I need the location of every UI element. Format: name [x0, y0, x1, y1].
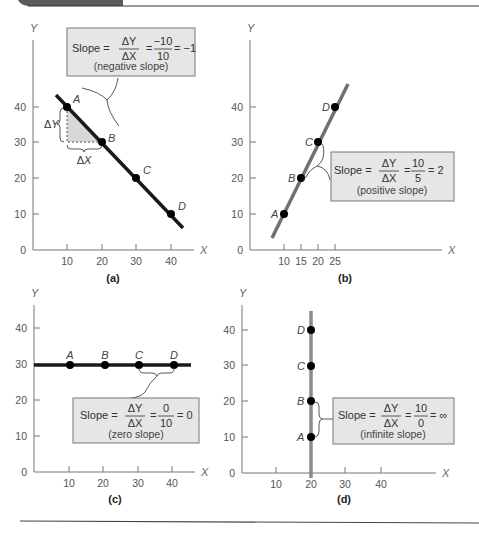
svg-text:ΔX: ΔX — [382, 172, 397, 184]
point-d — [167, 210, 175, 218]
svg-text:40: 40 — [166, 477, 178, 489]
svg-text:A: A — [270, 208, 278, 220]
svg-text:40: 40 — [231, 101, 243, 113]
point-a — [63, 103, 71, 111]
svg-text:10: 10 — [223, 431, 235, 443]
svg-text:X: X — [447, 244, 456, 256]
svg-text:A: A — [65, 349, 73, 361]
svg-text:40: 40 — [165, 255, 177, 267]
svg-text:20: 20 — [96, 255, 108, 267]
point-c — [307, 362, 315, 370]
svg-text:20: 20 — [231, 172, 243, 184]
svg-text:(a): (a) — [106, 272, 120, 284]
point-a — [307, 433, 315, 441]
svg-text:C: C — [297, 360, 305, 372]
svg-text:10: 10 — [15, 430, 27, 442]
svg-text:Slope =: Slope = — [72, 42, 110, 54]
svg-text:10: 10 — [415, 402, 427, 414]
svg-text:= 0: = 0 — [177, 409, 193, 421]
svg-text:ΔY: ΔY — [122, 35, 137, 47]
point-a — [66, 361, 74, 369]
point-c — [135, 361, 143, 369]
svg-text:X: X — [441, 467, 450, 479]
delta-x-brace — [67, 145, 102, 152]
svg-text:0: 0 — [20, 244, 26, 256]
svg-text:D: D — [297, 324, 305, 336]
svg-text:= ∞: = ∞ — [430, 409, 447, 421]
svg-text:−10: −10 — [154, 35, 173, 47]
svg-text:A: A — [296, 431, 304, 443]
svg-text:30: 30 — [130, 255, 142, 267]
svg-text:15: 15 — [295, 255, 307, 267]
point-d — [170, 361, 178, 369]
svg-text:B: B — [297, 395, 304, 407]
point-a — [280, 210, 288, 218]
svg-text:Slope =: Slope = — [338, 409, 376, 421]
svg-text:ΔY: ΔY — [384, 402, 399, 414]
svg-text:B: B — [101, 349, 108, 361]
svg-text:= −1: = −1 — [174, 42, 196, 54]
footer-rule — [20, 521, 479, 523]
svg-text:D: D — [322, 101, 330, 113]
svg-text:0: 0 — [229, 467, 235, 479]
svg-text:20: 20 — [312, 255, 324, 267]
svg-text:40: 40 — [223, 324, 235, 336]
svg-text:5: 5 — [415, 172, 421, 184]
svg-text:=: = — [146, 42, 152, 54]
svg-text:10: 10 — [231, 208, 243, 220]
header-rule — [18, 0, 479, 6]
svg-text:25: 25 — [329, 255, 341, 267]
svg-text:B: B — [108, 132, 115, 144]
svg-text:(d): (d) — [337, 493, 351, 505]
svg-text:(negative slope): (negative slope) — [94, 60, 169, 72]
point-b — [101, 361, 109, 369]
svg-text:(infinite slope): (infinite slope) — [360, 428, 425, 440]
svg-text:10: 10 — [412, 157, 424, 169]
panel-c: Y X 0 10 20 30 40 10 20 30 40 A B C D — [15, 287, 209, 505]
point-c — [314, 138, 322, 146]
svg-text:20: 20 — [223, 395, 235, 407]
point-c — [132, 174, 140, 182]
panel-d: Y X 0 10 20 30 40 10 20 30 40 A B C D Sl… — [223, 287, 454, 505]
svg-text:20: 20 — [97, 477, 109, 489]
svg-text:10: 10 — [270, 478, 282, 490]
svg-text:20: 20 — [15, 394, 27, 406]
svg-text:B: B — [288, 172, 295, 184]
svg-text:10: 10 — [278, 255, 290, 267]
svg-text:(c): (c) — [108, 493, 122, 505]
svg-text:(zero slope): (zero slope) — [108, 428, 163, 440]
svg-text:10: 10 — [63, 477, 75, 489]
svg-text:A: A — [72, 93, 80, 105]
svg-text:=: = — [405, 409, 411, 421]
svg-text:30: 30 — [15, 358, 27, 370]
svg-text:C: C — [135, 349, 143, 361]
svg-text:=: = — [404, 164, 410, 176]
svg-text:ΔY: ΔY — [382, 157, 397, 169]
delta-y-label: ΔY — [44, 118, 59, 130]
callout-brace — [315, 402, 333, 437]
point-d — [331, 103, 339, 111]
svg-text:20: 20 — [305, 478, 317, 490]
svg-text:40: 40 — [14, 101, 26, 113]
svg-text:Y: Y — [247, 22, 255, 34]
svg-text:0: 0 — [163, 402, 169, 414]
svg-text:(b): (b) — [338, 272, 352, 284]
point-b — [307, 397, 315, 405]
svg-text:Y: Y — [239, 287, 247, 299]
svg-text:10: 10 — [14, 208, 26, 220]
callout-brace — [82, 78, 119, 126]
svg-text:D: D — [178, 200, 186, 212]
svg-text:30: 30 — [339, 478, 351, 490]
svg-text:20: 20 — [14, 172, 26, 184]
svg-text:X: X — [200, 466, 209, 478]
y-axis-label: Y — [30, 22, 38, 34]
svg-text:= 2: = 2 — [428, 164, 444, 176]
svg-text:=: = — [150, 409, 156, 421]
delta-x-label: ΔX — [77, 154, 92, 166]
svg-text:40: 40 — [375, 478, 387, 490]
svg-text:D: D — [170, 349, 178, 361]
svg-text:40: 40 — [15, 322, 27, 334]
svg-text:C: C — [143, 164, 151, 176]
x-axis-label: X — [199, 244, 208, 256]
svg-text:Slope =: Slope = — [334, 164, 372, 176]
